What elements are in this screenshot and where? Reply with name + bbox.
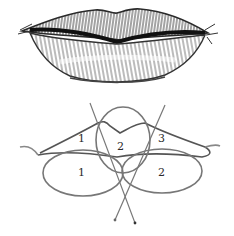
shaded-lips-sketch [0, 0, 234, 95]
upper-lip-label-1: 1 [78, 132, 85, 145]
upper-lip-label-2: 2 [117, 140, 124, 153]
lips-sketch-drawing [0, 0, 234, 95]
upper-lip-label-3: 3 [158, 132, 165, 145]
lower-lip-label-1: 1 [78, 166, 85, 179]
guide-line-left [90, 103, 135, 223]
upper-lip-shape [22, 9, 208, 40]
lower-lip-label-2: 2 [158, 166, 165, 179]
construction-drawing: 1 2 3 1 2 [0, 95, 234, 236]
lip-construction-diagram: 1 2 3 1 2 [0, 95, 234, 236]
guide-line-right [115, 105, 165, 220]
